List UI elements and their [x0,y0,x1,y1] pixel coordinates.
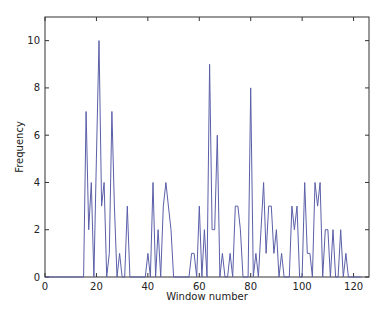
y-tick-label: 0 [34,272,40,283]
y-tick-label: 4 [34,177,40,188]
y-tick-label: 2 [34,224,40,235]
line-chart: 0246810 020406080100120 Window number Fr… [0,0,391,316]
y-tick-label: 10 [27,35,40,46]
x-tick-label: 20 [90,281,103,292]
x-tick-label: 0 [42,281,48,292]
y-tick-label: 8 [34,82,40,93]
x-tick-label: 40 [141,281,154,292]
x-axis-label: Window number [166,291,249,302]
x-tick-label: 120 [344,281,363,292]
x-tick-label: 100 [293,281,312,292]
y-axis-label: Frequency [14,121,25,173]
y-tick-label: 6 [34,130,40,141]
frequency-series-line [45,41,361,277]
x-axis: 020406080100120 [42,17,363,292]
